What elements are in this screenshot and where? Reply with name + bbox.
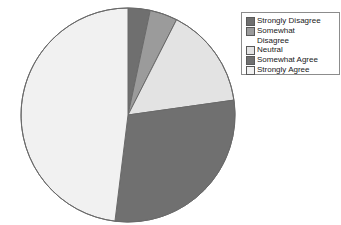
legend-label-strongly-agree: Strongly Agree — [257, 65, 309, 75]
legend-item-strongly-agree: Strongly Agree — [246, 65, 336, 75]
legend-swatch-strongly-agree — [246, 66, 255, 75]
legend-label-somewhat-agree: Somewhat Agree — [257, 55, 318, 65]
pie-slice — [115, 100, 235, 222]
legend-item-strongly-disagree: Strongly Disagree — [246, 16, 336, 26]
legend-swatch-neutral — [246, 46, 255, 55]
legend-swatch-somewhat-agree — [246, 56, 255, 65]
legend-label-strongly-disagree: Strongly Disagree — [257, 16, 321, 26]
pie-slices-group — [21, 8, 235, 222]
pie-slice — [21, 8, 128, 221]
legend-label-neutral: Neutral — [257, 45, 283, 55]
legend-item-somewhat-agree: Somewhat Agree — [246, 55, 336, 65]
pie-chart-figure: Strongly Disagree Somewhat Disagree Neut… — [0, 0, 341, 225]
legend-swatch-strongly-disagree — [246, 17, 255, 26]
legend-item-neutral: Neutral — [246, 45, 336, 55]
legend-item-somewhat-disagree: Somewhat Disagree — [246, 26, 336, 45]
legend-swatch-somewhat-disagree — [246, 27, 255, 36]
legend-label-somewhat-disagree: Somewhat Disagree — [257, 26, 295, 45]
chart-legend: Strongly Disagree Somewhat Disagree Neut… — [241, 12, 340, 75]
